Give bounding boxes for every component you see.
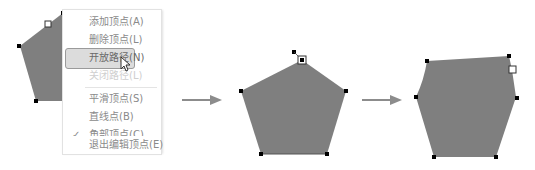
vertex-handle[interactable] <box>239 89 243 93</box>
menu-item-add-vertex[interactable]: 添加顶点(A) <box>63 13 161 31</box>
open-path-end-handle[interactable] <box>509 66 516 73</box>
pentagon-shape <box>239 50 348 156</box>
arrow-right-icon <box>362 95 402 105</box>
menu-separator <box>85 87 157 88</box>
control-handle[interactable] <box>45 21 51 27</box>
original-shape <box>17 11 65 103</box>
vertex-handle[interactable] <box>259 152 263 156</box>
vertex-handle[interactable] <box>494 155 498 159</box>
mouse-pointer-icon <box>120 56 132 72</box>
vertex-handle[interactable] <box>507 54 511 58</box>
vertex-handle[interactable] <box>432 155 436 159</box>
vertex-handle[interactable] <box>17 44 21 48</box>
menu-item-smooth-vertex[interactable]: 平滑顶点(S) <box>63 90 161 108</box>
vertex-context-menu: 添加顶点(A) 删除顶点(L) 开放路径(N) 关闭路径(L) 平滑顶点(S) … <box>62 9 162 153</box>
vertex-handle[interactable] <box>414 95 418 99</box>
menu-item-exit-vertex-edit[interactable]: 退出编辑顶点(E) <box>62 136 162 155</box>
vertex-handle[interactable] <box>325 152 329 156</box>
vertex-handle[interactable] <box>425 59 429 63</box>
menu-item-delete-vertex[interactable]: 删除顶点(L) <box>63 31 161 49</box>
vertex-handle[interactable] <box>344 89 348 93</box>
vertex-handle[interactable] <box>34 99 38 103</box>
vertex-edit-illustration: 添加顶点(A) 删除顶点(L) 开放路径(N) 关闭路径(L) 平滑顶点(S) … <box>0 0 535 170</box>
menu-item-open-path[interactable]: 开放路径(N) <box>63 49 161 67</box>
edited-shape <box>414 54 519 159</box>
vertex-handle[interactable] <box>515 96 519 100</box>
arrow-right-icon <box>182 95 222 105</box>
menu-item-straight-point[interactable]: 直线点(B) <box>63 108 161 126</box>
menu-item-close-path: 关闭路径(L) <box>63 67 161 85</box>
